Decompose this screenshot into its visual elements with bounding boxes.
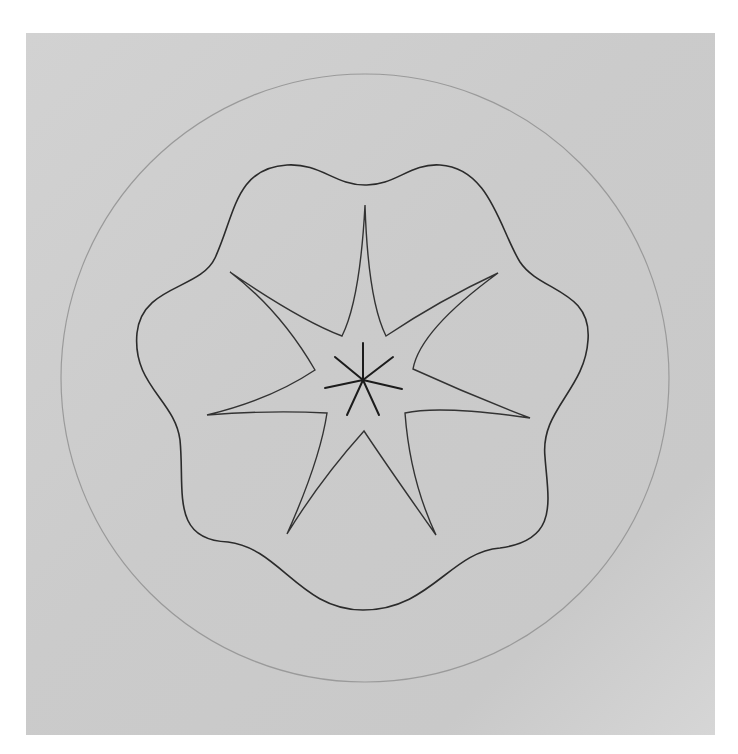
asterisk-arm — [325, 380, 363, 388]
asterisk-arm — [363, 380, 379, 415]
geometric-figure — [0, 0, 738, 754]
asterisk-arm — [363, 380, 402, 389]
asterisk-arm — [363, 357, 393, 380]
seven-armed-asterisk — [325, 343, 402, 415]
asterisk-arm — [335, 357, 363, 380]
seven-pointed-star — [207, 205, 530, 535]
asterisk-arm — [347, 380, 363, 415]
seven-lobed-wavy-curve — [137, 165, 589, 610]
